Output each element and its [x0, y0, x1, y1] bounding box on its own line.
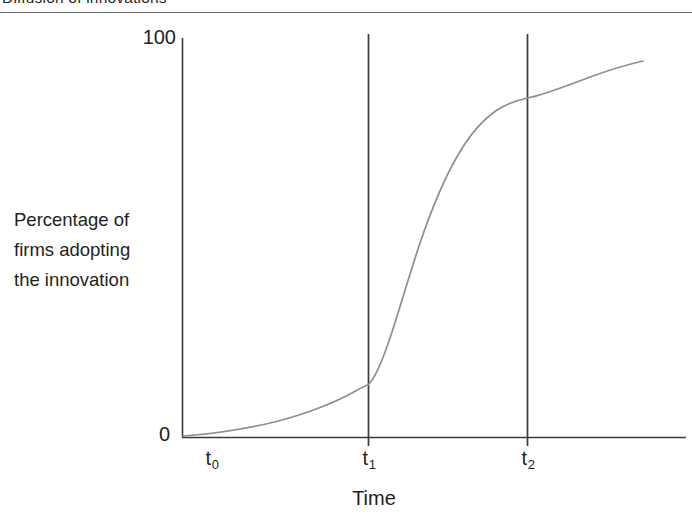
- x-tick-label-t2-base: t: [522, 447, 528, 469]
- x-tick-label-t2: t2: [522, 447, 535, 470]
- x-tick-label-t0-sub: 0: [212, 457, 219, 472]
- x-axis-title-text: Time: [352, 487, 396, 509]
- y-tick-label-100: 100: [130, 26, 176, 49]
- x-tick-label-t0-base: t: [206, 447, 212, 469]
- x-tick-label-t1: t1: [363, 447, 376, 470]
- x-tick-label-t0: t0: [206, 447, 219, 470]
- y-axis-title-line-1: Percentage of: [14, 205, 174, 235]
- x-tick-label-t2-sub: 2: [528, 457, 535, 472]
- y-axis-title: Percentage of firms adopting the innovat…: [14, 205, 174, 295]
- y-axis-title-line-3: the innovation: [14, 265, 174, 295]
- y-tick-label-0: 0: [140, 423, 170, 446]
- x-tick-label-t1-sub: 1: [369, 457, 376, 472]
- y-axis-title-line-2: firms adopting: [14, 235, 174, 265]
- x-axis-title: Time: [0, 487, 692, 510]
- x-tick-label-t1-base: t: [363, 447, 369, 469]
- figure-page: Diffusion of innovations 100 0 Percentag…: [0, 0, 692, 532]
- diffusion-curve: [183, 61, 643, 436]
